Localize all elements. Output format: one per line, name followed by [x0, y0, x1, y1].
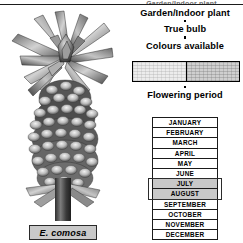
- month-row: SEPTEMBER: [153, 200, 217, 210]
- square-bullet-icon-3: [184, 86, 186, 88]
- species-label: E. comosa: [29, 225, 97, 240]
- month-row-active: AUGUST: [153, 189, 217, 199]
- colour-swatch-pale-green-grey: [186, 62, 240, 81]
- month-row: FEBRUARY: [153, 128, 217, 138]
- species-label-text: E. comosa: [40, 228, 87, 238]
- habit-line: Garden/Indoor plant: [127, 7, 243, 19]
- month-row: MAY: [153, 159, 217, 169]
- month-row: MARCH: [153, 138, 217, 148]
- colour-swatch-row: [132, 61, 240, 82]
- square-bullet-icon-1: [184, 20, 186, 22]
- colour-swatch-cream-white: [133, 62, 186, 81]
- flowering-period-title: Flowering period: [127, 90, 243, 101]
- info-column: Garden/Indoor plant True bulb Colours av…: [127, 7, 243, 243]
- plant-stem: [55, 178, 71, 221]
- plant-info-card: Garden/Indoor plant: [0, 0, 243, 243]
- month-row: JANUARY: [153, 118, 217, 128]
- plant-illustration-pane: E. comosa: [0, 6, 127, 243]
- square-bullet-icon-2: [184, 36, 186, 38]
- month-row: JUNE: [153, 169, 217, 179]
- header-divider-rule: [0, 4, 243, 5]
- month-row: DECEMBER: [153, 230, 217, 240]
- month-row: OCTOBER: [153, 210, 217, 220]
- colours-available-label: Colours available: [127, 40, 243, 52]
- eucomis-comosa-illustration: [0, 6, 127, 221]
- month-row: APRIL: [153, 149, 217, 159]
- month-row-active: JULY: [153, 179, 217, 189]
- flowering-period-header: Flowering period: [127, 86, 243, 104]
- bulb-type-line: True bulb: [127, 23, 243, 35]
- month-row: NOVEMBER: [153, 220, 217, 230]
- flowering-month-table: JANUARY FEBRUARY MARCH APRIL MAY JUNE JU…: [152, 117, 218, 240]
